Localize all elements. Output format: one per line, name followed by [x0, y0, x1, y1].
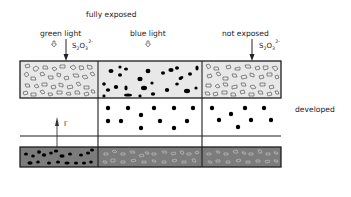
photographic-emulsion-diagram: fully exposed green light blue light not…: [0, 0, 351, 197]
label-developed: developed: [295, 105, 335, 114]
hollow-down-arrow-icon: [146, 41, 151, 47]
bottom-emulsion-layer: [20, 147, 281, 167]
label-not-exposed: not exposed: [222, 29, 269, 38]
silver-dots-middle: [106, 106, 195, 130]
label-green-light: green light: [40, 29, 81, 38]
reagent-label-right: S2O32-: [259, 39, 280, 51]
silver-dots-right: [210, 106, 273, 129]
top-emulsion-layer: [20, 61, 281, 98]
thiosulfate-arrow-icon: [250, 39, 255, 61]
hollow-down-arrow-icon: [52, 41, 57, 47]
label-blue-light: blue light: [130, 29, 166, 38]
title-fully-exposed: fully exposed: [86, 10, 137, 19]
iodide-label: I-: [64, 119, 68, 128]
reagent-label-left: S2O32-: [72, 39, 93, 51]
thiosulfate-arrow-icon: [64, 39, 69, 61]
